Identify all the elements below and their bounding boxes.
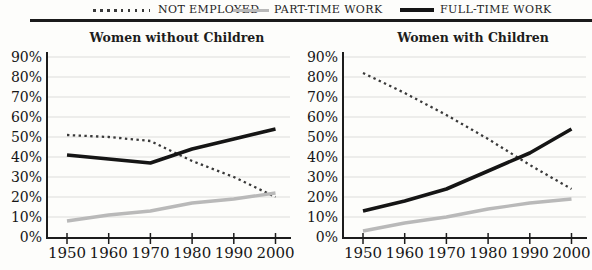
y-axis-tick-label: 60% bbox=[307, 109, 338, 125]
y-axis-tick-label: 90% bbox=[307, 49, 338, 65]
x-axis-tick-label: 1960 bbox=[386, 244, 424, 262]
x-axis-tick-label: 1960 bbox=[90, 244, 128, 262]
y-axis-tick-label: 70% bbox=[11, 89, 42, 105]
y-axis-tick-label: 50% bbox=[307, 129, 338, 145]
series-line-not-employed bbox=[67, 135, 276, 197]
y-axis-tick-label: 70% bbox=[307, 89, 338, 105]
y-axis-tick-label: 40% bbox=[11, 149, 42, 165]
y-axis-tick-label: 40% bbox=[307, 149, 338, 165]
y-axis-tick-label: 60% bbox=[11, 109, 42, 125]
employment-figure: NOT EMPLOYED PART-TIME WORK FULL-TIME WO… bbox=[0, 0, 592, 270]
y-axis-tick-label: 90% bbox=[11, 49, 42, 65]
y-axis-tick-label: 30% bbox=[11, 169, 42, 185]
x-axis-tick-label: 1980 bbox=[173, 244, 211, 262]
y-axis-tick-label: 30% bbox=[307, 169, 338, 185]
series-line-not-employed bbox=[363, 73, 572, 189]
x-axis-tick-label: 1980 bbox=[469, 244, 507, 262]
legend-divider-rule bbox=[30, 19, 592, 22]
y-axis-tick-label: 80% bbox=[307, 69, 338, 85]
y-axis-tick-label: 10% bbox=[11, 209, 42, 225]
chart-svg: Women without Children0%10%20%30%40%50%6… bbox=[0, 25, 296, 270]
not-employed-line-swatch-icon bbox=[93, 9, 150, 12]
chart-title: Women with Children bbox=[396, 30, 549, 45]
x-axis-tick-label: 1970 bbox=[131, 244, 169, 262]
chart-women-without-children: Women without Children0%10%20%30%40%50%6… bbox=[0, 25, 296, 270]
x-axis-tick-label: 2000 bbox=[256, 244, 294, 262]
series-line-full-time-work bbox=[363, 129, 572, 211]
chart-svg: Women with Children0%10%20%30%40%50%60%7… bbox=[296, 25, 592, 270]
chart-legend: NOT EMPLOYED PART-TIME WORK FULL-TIME WO… bbox=[0, 0, 592, 19]
legend-label-full-time: FULL-TIME WORK bbox=[440, 3, 552, 16]
x-axis-tick-label: 1990 bbox=[215, 244, 253, 262]
y-axis-tick-label: 0% bbox=[20, 229, 42, 245]
x-axis-tick-label: 1970 bbox=[427, 244, 465, 262]
y-axis-tick-label: 10% bbox=[307, 209, 338, 225]
x-axis-tick-label: 2000 bbox=[552, 244, 590, 262]
series-line-full-time-work bbox=[67, 129, 276, 163]
y-axis-tick-label: 80% bbox=[11, 69, 42, 85]
x-axis-tick-label: 1950 bbox=[344, 244, 382, 262]
part-time-line-swatch-icon bbox=[233, 9, 269, 13]
chart-women-with-children: Women with Children0%10%20%30%40%50%60%7… bbox=[296, 25, 592, 270]
y-axis-tick-label: 0% bbox=[316, 229, 338, 245]
x-axis-tick-label: 1990 bbox=[511, 244, 549, 262]
full-time-line-swatch-icon bbox=[400, 8, 434, 12]
legend-label-part-time: PART-TIME WORK bbox=[274, 3, 383, 16]
chart-title: Women without Children bbox=[89, 30, 265, 45]
y-axis-tick-label: 50% bbox=[11, 129, 42, 145]
y-axis-tick-label: 20% bbox=[307, 189, 338, 205]
x-axis-tick-label: 1950 bbox=[48, 244, 86, 262]
y-axis-tick-label: 20% bbox=[11, 189, 42, 205]
charts-row: Women without Children0%10%20%30%40%50%6… bbox=[0, 25, 592, 270]
